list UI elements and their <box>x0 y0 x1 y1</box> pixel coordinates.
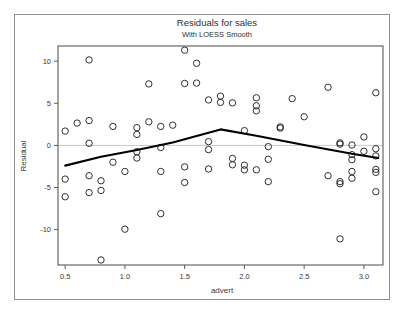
loess-smooth-line <box>65 129 378 165</box>
x-tick-label: 1.5 <box>179 272 189 281</box>
scatter-point <box>373 146 379 152</box>
scatter-point <box>205 146 211 152</box>
scatter-point <box>86 173 92 179</box>
x-tick-label: 1.0 <box>120 272 130 281</box>
loess-smooth-path <box>65 129 378 165</box>
scatter-point <box>241 167 247 173</box>
y-tick-label: -10 <box>40 225 51 234</box>
scatter-point <box>349 175 355 181</box>
y-axis-ticks: 1050-5-10 <box>40 57 58 234</box>
scatter-point <box>265 178 271 184</box>
scatter-point <box>193 80 199 86</box>
scatter-point <box>110 159 116 165</box>
scatter-point <box>181 179 187 185</box>
x-tick-label: 0.5 <box>60 272 70 281</box>
scatter-point <box>98 178 104 184</box>
scatter-point <box>301 114 307 120</box>
residuals-scatter-chart: Residuals for sales With LOESS Smooth 0.… <box>0 0 402 316</box>
scatter-point <box>134 155 140 161</box>
x-tick-label: 3.0 <box>359 272 369 281</box>
scatter-point <box>205 97 211 103</box>
scatter-point <box>217 99 223 105</box>
scatter-point <box>361 148 367 154</box>
scatter-point <box>349 168 355 174</box>
scatter-point <box>265 143 271 149</box>
scatter-point <box>122 168 128 174</box>
scatter-point <box>229 155 235 161</box>
scatter-point <box>337 236 343 242</box>
scatter-point <box>62 128 68 134</box>
scatter-point <box>229 162 235 168</box>
scatter-point <box>325 84 331 90</box>
scatter-point <box>217 93 223 99</box>
y-tick-label: 5 <box>47 99 51 108</box>
scatter-point <box>205 138 211 144</box>
scatter-point <box>265 156 271 162</box>
scatter-point <box>373 189 379 195</box>
scatter-point <box>74 120 80 126</box>
scatter-point <box>181 164 187 170</box>
scatter-point <box>289 95 295 101</box>
scatter-point <box>134 125 140 131</box>
scatter-point <box>325 173 331 179</box>
chart-title: Residuals for sales <box>177 17 258 28</box>
scatter-point <box>98 187 104 193</box>
y-axis-title: Residual <box>19 140 28 171</box>
scatter-point <box>62 176 68 182</box>
scatter-point <box>86 117 92 123</box>
y-tick-label: 0 <box>47 141 51 150</box>
scatter-point <box>146 81 152 87</box>
scatter-point <box>62 194 68 200</box>
scatter-point <box>86 57 92 63</box>
scatter-point <box>86 189 92 195</box>
scatter-point <box>158 168 164 174</box>
x-tick-label: 2.5 <box>299 272 309 281</box>
scatter-point <box>110 123 116 129</box>
y-tick-label: 10 <box>43 57 51 66</box>
scatter-point <box>170 122 176 128</box>
scatter-point <box>361 134 367 140</box>
y-tick-label: -5 <box>44 183 51 192</box>
scatter-point <box>146 119 152 125</box>
scatter-point <box>122 226 128 232</box>
figure-root: Residuals for sales With LOESS Smooth 0.… <box>0 0 402 316</box>
scatter-point <box>181 80 187 86</box>
scatter-point <box>253 167 259 173</box>
x-tick-label: 2.0 <box>239 272 249 281</box>
scatter-point <box>158 210 164 216</box>
scatter-point <box>253 95 259 101</box>
scatter-point <box>205 166 211 172</box>
chart-subtitle: With LOESS Smooth <box>182 30 252 39</box>
x-axis-title: advert <box>211 286 234 295</box>
scatter-point <box>229 100 235 106</box>
scatter-point <box>134 131 140 137</box>
scatter-point <box>181 47 187 53</box>
x-axis-ticks: 0.51.01.52.02.53.0 <box>60 265 369 281</box>
scatter-point <box>193 60 199 66</box>
scatter-point <box>98 257 104 263</box>
scatter-point <box>158 123 164 129</box>
scatter-point <box>373 90 379 96</box>
